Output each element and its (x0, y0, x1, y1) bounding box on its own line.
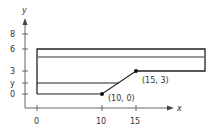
y-tick-3: 3 (10, 67, 15, 76)
y-tick-8: 8 (10, 30, 15, 39)
y-axis: y 8 6 3 y 0 (10, 6, 28, 108)
y-tick-y: y (10, 79, 15, 88)
x-tick-10: 10 (96, 117, 106, 126)
x-tick-15: 15 (130, 117, 140, 126)
x-tick-0: 0 (34, 117, 39, 126)
y-tick-0: 0 (10, 90, 15, 99)
point-15-3 (134, 69, 138, 73)
x-axis-arrow-icon (167, 106, 174, 111)
x-axis-label: x (176, 104, 182, 113)
point-label-15-3: (15, 3) (142, 76, 169, 85)
diagram: y 8 6 3 y 0 x 0 10 15 (10, 0) (15, 3) (0, 0, 212, 132)
y-axis-arrow-icon (23, 18, 28, 25)
outer-boundary (37, 49, 205, 94)
x-axis: x 0 10 15 (25, 104, 182, 126)
y-tick-6: 6 (10, 45, 15, 54)
region-shapes (37, 49, 205, 94)
point-10-0 (100, 92, 104, 96)
point-label-10-0: (10, 0) (108, 94, 135, 103)
y-axis-label: y (21, 6, 27, 15)
